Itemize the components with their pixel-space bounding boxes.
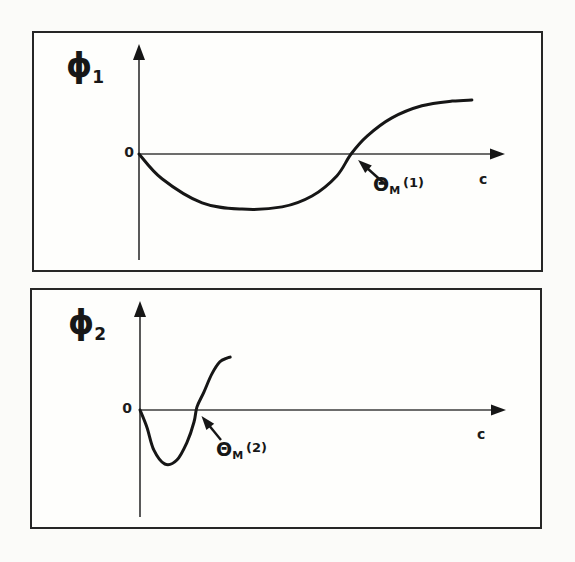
origin-zero-label: 0 [118, 145, 134, 159]
x-axis-label-c: c [477, 427, 485, 441]
theta-superscript: (1) [403, 175, 424, 190]
phi2-plot-canvas [32, 290, 540, 527]
phi1-plot-panel: ϕ1 0 c ΘM(1) [32, 31, 543, 272]
theta-superscript: (2) [246, 440, 267, 455]
theta-symbol: Θ [373, 173, 389, 195]
theta-m1-annotation-label: ΘM(1) [373, 175, 424, 196]
x-axis-label-c: c [479, 172, 487, 186]
theta-symbol: Θ [216, 438, 232, 460]
phi-symbol: ϕ [66, 46, 92, 85]
two-panel-phi-vs-c-figure: ϕ1 0 c ΘM(1) ϕ2 0 c ΘM(2) [0, 0, 575, 562]
phi1-y-axis-label: ϕ1 [66, 49, 104, 86]
origin-zero-label: 0 [116, 401, 132, 415]
phi2-y-axis-label: ϕ2 [68, 306, 106, 343]
phi2-plot-panel: ϕ2 0 c ΘM(2) [30, 288, 542, 529]
phi-subscript: 2 [94, 324, 106, 344]
theta-m2-annotation-label: ΘM(2) [216, 440, 267, 461]
theta-subscript: M [232, 449, 243, 462]
phi1-plot-canvas [34, 33, 541, 270]
phi-subscript: 1 [92, 67, 104, 87]
phi-symbol: ϕ [68, 303, 94, 342]
theta-subscript: M [389, 184, 400, 197]
